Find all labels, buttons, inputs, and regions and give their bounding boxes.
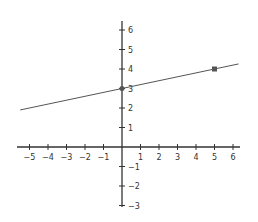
x-tick-label: −3 — [61, 153, 73, 162]
tick-labels: −5−4−3−2−1123456654321−1−2−3 — [24, 26, 236, 211]
x-tick-label: −2 — [79, 153, 91, 162]
y-tick-label: 5 — [128, 46, 133, 55]
y-tick-label: −2 — [128, 182, 140, 191]
y-tick-label: 6 — [128, 26, 133, 35]
ticks — [30, 30, 234, 206]
point-5-4 — [212, 67, 217, 72]
x-tick-label: −5 — [24, 153, 36, 162]
x-tick-label: 2 — [156, 153, 161, 162]
y-tick-label: −1 — [128, 163, 140, 172]
x-tick-label: 4 — [193, 153, 198, 162]
y-tick-label: 2 — [128, 104, 133, 113]
x-tick-label: 6 — [230, 153, 235, 162]
y-tick-label: 4 — [128, 65, 133, 74]
x-tick-label: 3 — [175, 153, 180, 162]
x-tick-label: −4 — [42, 153, 54, 162]
x-tick-label: 1 — [138, 153, 143, 162]
y-tick-label: −3 — [128, 202, 140, 211]
x-tick-label: 5 — [212, 153, 217, 162]
x-tick-label: −1 — [98, 153, 110, 162]
y-tick-label: 1 — [128, 124, 133, 133]
coordinate-plane: −5−4−3−2−1123456654321−1−2−3 — [0, 0, 258, 222]
point-0-3 — [120, 86, 125, 91]
